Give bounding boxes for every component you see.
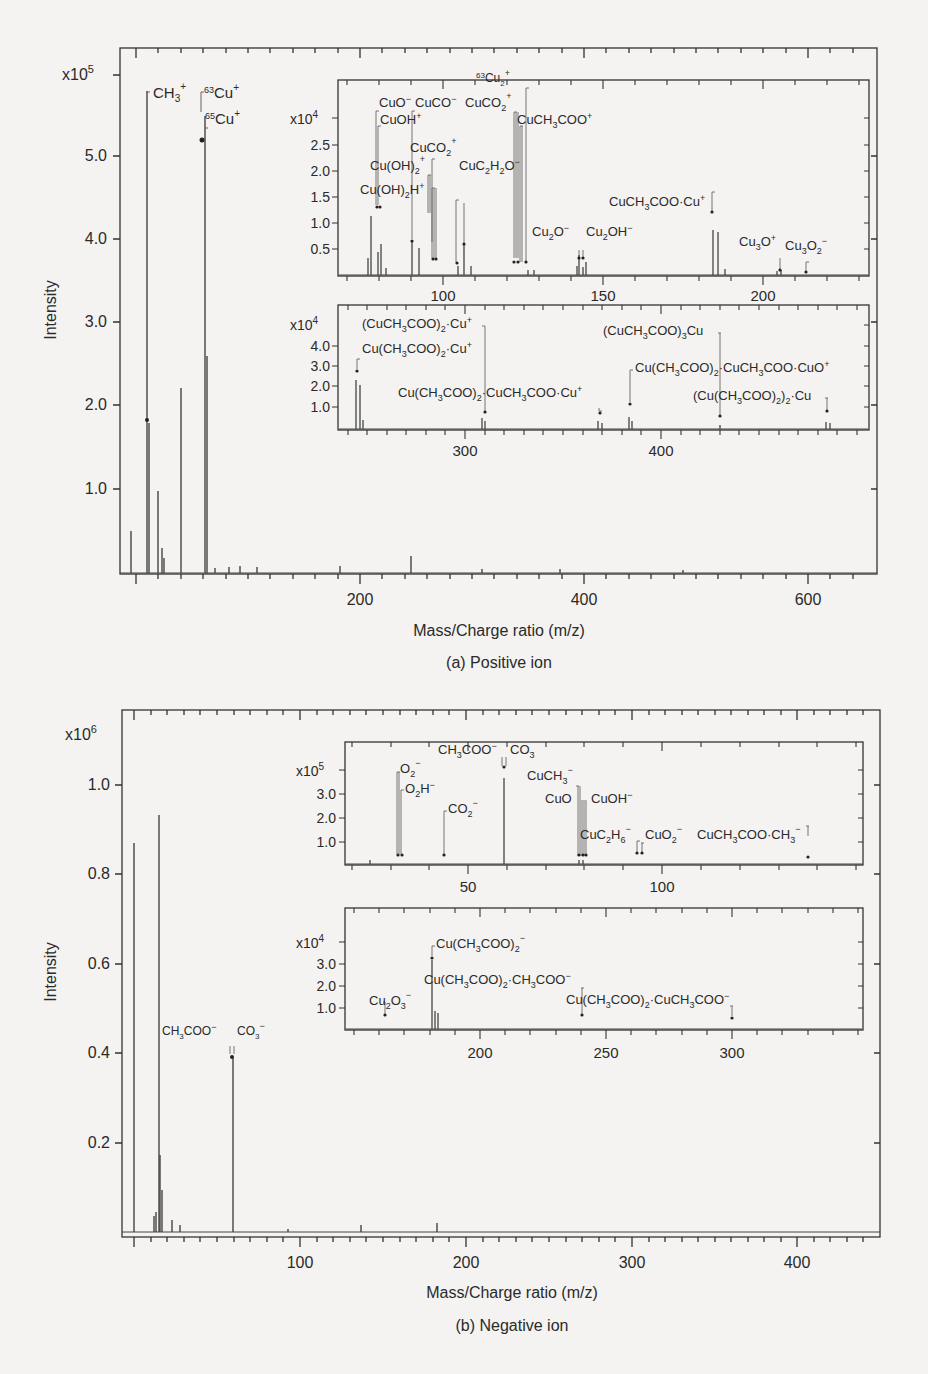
- y-tick-label: 4.0: [85, 230, 107, 247]
- x-tick-label: 250: [593, 1044, 618, 1061]
- caption-negative-ion: (b) Negative ion: [456, 1317, 569, 1334]
- y-tick-label: 2.5: [311, 137, 331, 153]
- svg-text:CuCO−: CuCO−: [415, 94, 456, 110]
- x-tick-label: 600: [795, 591, 822, 608]
- svg-text:65Cu+: 65Cu+: [205, 108, 240, 127]
- y-axis-label: Intensity: [42, 942, 59, 1002]
- y-tick-label: 0.5: [311, 241, 331, 257]
- y-tick-label: 3.0: [317, 956, 337, 972]
- svg-text:CuOH+: CuOH+: [380, 111, 421, 127]
- y-tick-label: 1.0: [317, 1000, 337, 1016]
- y-tick-label: 2.0: [85, 396, 107, 413]
- y-tick-label: 1.0: [88, 776, 110, 793]
- inset-y-multiplier: x104: [290, 315, 319, 333]
- x-axis-label: Mass/Charge ratio (m/z): [413, 622, 585, 639]
- y-tick-label: 0.2: [88, 1134, 110, 1151]
- svg-text:CuCH3COO·CH3−: CuCH3COO·CH3−: [697, 824, 800, 845]
- y-tick-label: 0.8: [88, 865, 110, 882]
- y-tick-label: 1.0: [311, 399, 331, 415]
- y-tick-label: 0.4: [88, 1044, 110, 1061]
- svg-text:63Cu+: 63Cu+: [204, 82, 239, 101]
- x-tick-label: 100: [649, 878, 674, 895]
- x-tick-label: 400: [571, 591, 598, 608]
- x-tick-label: 400: [648, 442, 673, 459]
- x-tick-label: 50: [460, 878, 477, 895]
- negative-inset-2: [345, 908, 863, 1030]
- y-tick-label: 4.0: [311, 338, 331, 354]
- y-tick-label: 1.0: [317, 834, 337, 850]
- y-tick-label: 3.0: [311, 358, 331, 374]
- x-tick-label: 200: [750, 287, 775, 304]
- x-tick-label: 100: [430, 287, 455, 304]
- svg-text:CH3+: CH3+: [153, 81, 186, 104]
- inset-y-multiplier: x104: [296, 933, 325, 951]
- y-axis-label: Intensity: [42, 280, 59, 340]
- y-tick-label: 2.0: [317, 978, 337, 994]
- svg-text:CuO: CuO: [545, 791, 572, 806]
- y-tick-label: 3.0: [85, 313, 107, 330]
- x-tick-label: 300: [719, 1044, 744, 1061]
- svg-text:CuO2−: CuO2−: [645, 824, 682, 845]
- svg-text:CuOH−: CuOH−: [591, 790, 632, 806]
- y-tick-label: 1.5: [311, 189, 331, 205]
- y-tick-label: 1.0: [85, 480, 107, 497]
- svg-text:CO3−: CO3−: [237, 1021, 265, 1041]
- x-axis-label: Mass/Charge ratio (m/z): [426, 1284, 598, 1301]
- y-tick-label: 2.0: [317, 810, 337, 826]
- x-tick-label: 200: [347, 591, 374, 608]
- positive-y-multiplier: x105: [62, 63, 94, 83]
- x-tick-label: 100: [287, 1254, 314, 1271]
- x-tick-label: 200: [453, 1254, 480, 1271]
- figure: x105 5.0 4.0 3.0 2.0 1.0 200 400 600 Mas…: [0, 0, 928, 1374]
- negative-y-multiplier: x106: [65, 723, 97, 743]
- y-tick-label: 2.0: [311, 163, 331, 179]
- y-tick-label: 1.0: [311, 215, 331, 231]
- inset-y-multiplier: x104: [290, 109, 319, 127]
- y-tick-label: 5.0: [85, 147, 107, 164]
- caption-positive-ion: (a) Positive ion: [446, 654, 552, 671]
- y-tick-label: 2.0: [311, 378, 331, 394]
- svg-text:CH3COO−: CH3COO−: [162, 1022, 216, 1041]
- x-tick-label: 200: [467, 1044, 492, 1061]
- x-tick-label: 400: [784, 1254, 811, 1271]
- x-tick-label: 300: [452, 442, 477, 459]
- x-tick-label: 300: [619, 1254, 646, 1271]
- x-tick-label: 150: [590, 287, 615, 304]
- svg-text:Cu(CH3COO)2−: Cu(CH3COO)2−: [436, 933, 525, 954]
- inset-y-multiplier: x105: [296, 761, 325, 779]
- negative-main-annotation: CH3COO− CO3−: [162, 1021, 265, 1041]
- y-tick-label: 3.0: [317, 786, 337, 802]
- y-tick-label: 0.6: [88, 955, 110, 972]
